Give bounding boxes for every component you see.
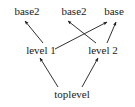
- edge-level2-to-base_right: [107, 22, 116, 43]
- node-label-toplevel: toplevel: [54, 89, 89, 100]
- node-label-level1: level 1: [26, 45, 56, 56]
- dependency-graph-diagram: base2base2baselevel 1level 2toplevel: [0, 0, 135, 107]
- node-label-base_right: base: [104, 6, 124, 17]
- node-label-level2: level 2: [88, 45, 118, 56]
- node-label-base2_mid: base2: [61, 6, 86, 17]
- node-label-base2_left: base2: [14, 6, 39, 17]
- edge-toplevel-to-level2: [82, 58, 98, 87]
- edge-toplevel-to-level1: [40, 58, 58, 87]
- edge-level1-to-base2_left: [25, 21, 43, 43]
